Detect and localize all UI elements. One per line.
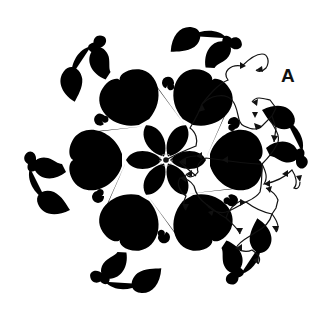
figure-label: A [281, 66, 295, 85]
quilt-motif-diagram [0, 0, 320, 335]
start-point-dot [163, 157, 169, 163]
